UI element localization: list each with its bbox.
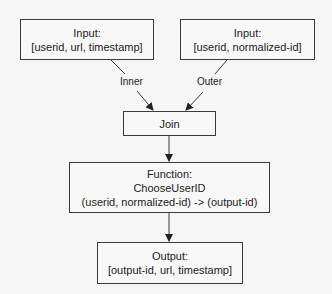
outer-edge-label: Outer <box>197 76 222 88</box>
input-right-node: Input: [userid, normalized-id] <box>180 19 315 60</box>
function-node: Function: ChooseUserID (userid, normaliz… <box>69 162 270 213</box>
inner-edge-arrow <box>137 91 153 110</box>
input-left-fields: [userid, url, timestamp] <box>31 40 142 54</box>
output-node: Output: [output-id, url, timestamp] <box>97 242 243 284</box>
function-signature: (userid, normalized-id) -> (output-id) <box>82 195 258 209</box>
inner-edge-upper <box>111 60 125 74</box>
join-title: Join <box>159 117 179 131</box>
inner-edge-label: Inner <box>120 76 143 88</box>
output-fields: [output-id, url, timestamp] <box>108 263 232 277</box>
input-right-fields: [userid, normalized-id] <box>193 40 301 54</box>
outer-edge-upper <box>215 60 227 74</box>
function-title: Function: <box>147 167 192 181</box>
input-left-node: Input: [userid, url, timestamp] <box>20 19 154 60</box>
join-node: Join <box>123 111 216 136</box>
outer-edge-arrow <box>186 92 203 110</box>
function-name: ChooseUserID <box>133 181 205 195</box>
output-title: Output: <box>152 249 188 263</box>
input-left-title: Input: <box>73 26 101 40</box>
input-right-title: Input: <box>234 26 262 40</box>
